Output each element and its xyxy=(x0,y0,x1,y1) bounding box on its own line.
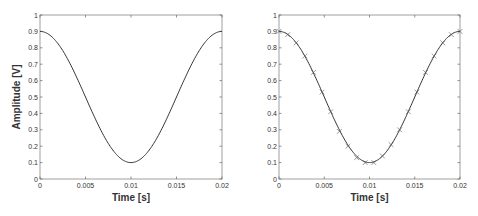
y-tick-label: 0.9 xyxy=(28,28,38,35)
x-tick-label: 0.02 xyxy=(215,182,229,189)
x-tick-label: 0 xyxy=(38,182,42,189)
y-tick-label: 0.3 xyxy=(267,126,277,133)
y-tick-label: 0.4 xyxy=(267,110,277,117)
y-axis-label: Amplitude [V] xyxy=(11,65,22,130)
y-tick-label: 0.8 xyxy=(28,44,38,51)
axes-box xyxy=(40,15,222,179)
y-tick-label: 0.7 xyxy=(267,61,277,68)
x-tick-label: 0.01 xyxy=(363,182,377,189)
y-tick-label: 0.7 xyxy=(28,61,38,68)
y-tick-label: 0.6 xyxy=(28,77,38,84)
x-axis-label: Time [s] xyxy=(350,192,388,203)
y-tick-label: 0.2 xyxy=(267,143,277,150)
x-axis-label: Time [s] xyxy=(112,192,150,203)
x-tick-label: 0.015 xyxy=(406,182,424,189)
left-plot: 00.10.20.30.40.50.60.70.80.9100.0050.010… xyxy=(11,12,229,204)
x-tick-label: 0.005 xyxy=(315,182,333,189)
y-tick-label: 0.1 xyxy=(267,159,277,166)
x-tick-label: 0.015 xyxy=(168,182,186,189)
y-tick-label: 0.2 xyxy=(28,143,38,150)
y-tick-label: 0.4 xyxy=(28,110,38,117)
x-tick-label: 0.005 xyxy=(77,182,95,189)
y-tick-label: 0.5 xyxy=(28,94,38,101)
figure: 00.10.20.30.40.50.60.70.80.9100.0050.010… xyxy=(0,0,478,216)
y-tick-label: 1 xyxy=(34,12,38,19)
y-tick-label: 0.1 xyxy=(28,159,38,166)
y-tick-label: 1 xyxy=(273,12,277,19)
y-tick-label: 0.8 xyxy=(267,44,277,51)
y-tick-label: 0.5 xyxy=(267,94,277,101)
x-tick-label: 0 xyxy=(277,182,281,189)
right-plot: 00.10.20.30.40.50.60.70.80.9100.0050.010… xyxy=(267,12,467,204)
y-tick-label: 0.9 xyxy=(267,28,277,35)
x-tick-label: 0.02 xyxy=(453,182,467,189)
x-tick-label: 0.01 xyxy=(124,182,138,189)
axes-box xyxy=(279,15,460,179)
y-tick-label: 0.6 xyxy=(267,77,277,84)
y-tick-label: 0.3 xyxy=(28,126,38,133)
